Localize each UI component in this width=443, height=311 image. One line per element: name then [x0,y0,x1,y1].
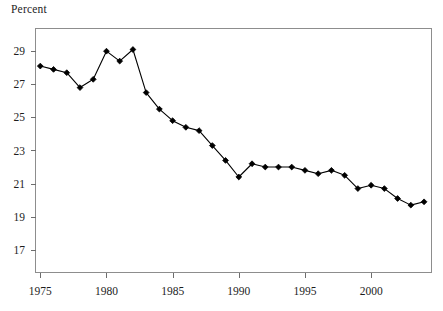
y-axis-tick-label: 29 [3,45,25,57]
y-axis-tick-mark [31,51,36,52]
y-axis-tick-label: 25 [3,111,25,123]
x-axis-tick-label: 1980 [86,285,126,297]
y-axis-tick-mark [31,250,36,251]
x-axis-tick-mark [106,273,107,278]
x-axis-tick-label: 1990 [219,285,259,297]
y-axis-title: Percent [11,3,47,15]
x-axis-tick-label: 1985 [153,285,193,297]
chart-figure: Percent 17192123252729197519801985199019… [0,0,443,311]
y-axis-tick-label: 17 [3,244,25,256]
x-axis-tick-mark [305,273,306,278]
y-axis-tick-mark [31,84,36,85]
y-axis-tick-label: 23 [3,145,25,157]
y-axis-tick-label: 19 [3,211,25,223]
y-axis-tick-mark [31,217,36,218]
x-axis-tick-label: 1975 [20,285,60,297]
y-axis-tick-mark [31,117,36,118]
x-axis-tick-label: 2000 [351,285,391,297]
x-axis-tick-label: 1995 [285,285,325,297]
y-axis-tick-label: 27 [3,78,25,90]
y-axis-tick-label: 21 [3,178,25,190]
x-axis-tick-mark [173,273,174,278]
y-axis-tick-mark [31,150,36,151]
plot-area [35,28,432,273]
x-axis-tick-mark [371,273,372,278]
y-axis-tick-mark [31,184,36,185]
x-axis-tick-mark [40,273,41,278]
x-axis-tick-mark [239,273,240,278]
